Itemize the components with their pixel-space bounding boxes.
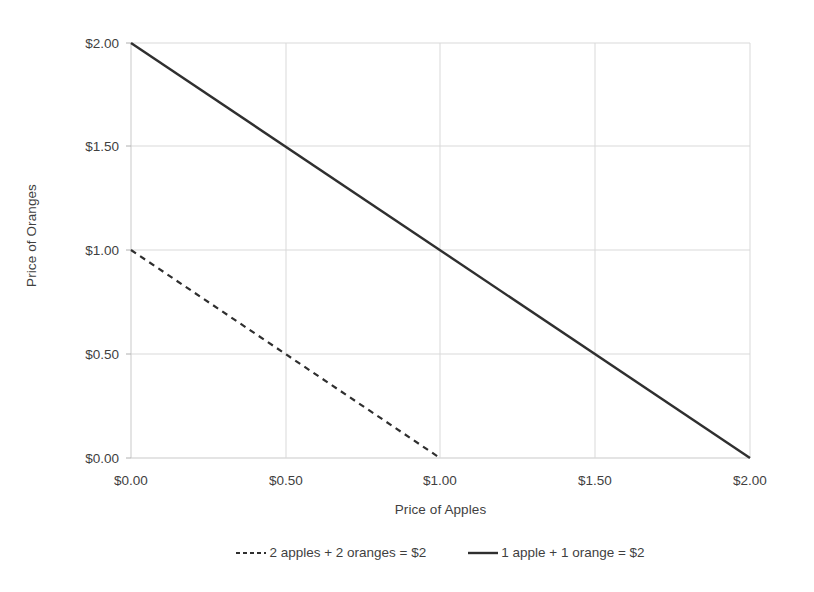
- legend-item-solid[interactable]: 1 apple + 1 orange = $2: [468, 545, 644, 560]
- tick-marks: [126, 43, 131, 458]
- chart-container: Price of Oranges: [0, 0, 814, 592]
- y-tick-label-0: $0.00: [85, 451, 119, 466]
- legend-label-solid: 1 apple + 1 orange = $2: [501, 545, 644, 560]
- x-tick-label-4: $2.00: [733, 473, 767, 488]
- legend-swatch-dashed-icon: [236, 547, 266, 559]
- legend-label-dashed: 2 apples + 2 oranges = $2: [269, 545, 426, 560]
- plot-area: $2.00 $1.50 $1.00 $0.50 $0.00 $0.00 $0.5…: [0, 0, 814, 500]
- y-tick-label-3: $1.50: [85, 139, 119, 154]
- legend-item-dashed[interactable]: 2 apples + 2 oranges = $2: [236, 545, 426, 560]
- y-tick-label-2: $1.00: [85, 243, 119, 258]
- x-axis-title-container: Price of Apples: [131, 500, 750, 518]
- x-tick-label-3: $1.50: [578, 473, 612, 488]
- x-axis-title: Price of Apples: [395, 502, 487, 517]
- x-tick-label-1: $0.50: [269, 473, 303, 488]
- y-tick-label-1: $0.50: [85, 347, 119, 362]
- chart-legend: 2 apples + 2 oranges = $2 1 apple + 1 or…: [131, 545, 750, 560]
- y-tick-label-4: $2.00: [85, 36, 119, 51]
- x-tick-label-2: $1.00: [423, 473, 457, 488]
- legend-swatch-solid-icon: [468, 547, 498, 559]
- x-tick-label-0: $0.00: [114, 473, 148, 488]
